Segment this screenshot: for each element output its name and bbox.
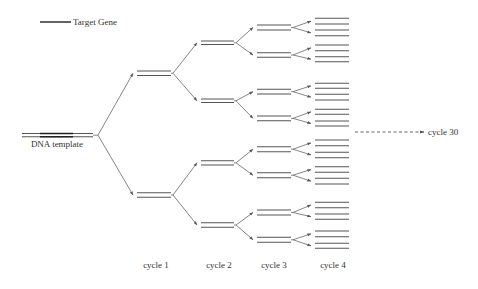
- cycle-1-label: cycle 1: [143, 260, 169, 270]
- branch-arrow-icon: [236, 213, 253, 226]
- generation-2: [201, 41, 234, 227]
- branch-arrow-icon: [236, 43, 253, 55]
- branch-arrow-icon: [236, 28, 253, 43]
- branch-arrow-icon: [293, 234, 311, 240]
- amplification-generations: [137, 18, 349, 248]
- branch-arrow-icon: [293, 92, 311, 98]
- branch-arrow-icon: [293, 205, 311, 213]
- branch-arrow-icon: [293, 118, 311, 123]
- branch-arrow-icon: [293, 86, 311, 92]
- branch-arrow-icon: [293, 175, 311, 181]
- branch-arrow-icon: [236, 101, 253, 119]
- branch-arrow-icon: [293, 55, 311, 59]
- dna-template-label: DNA template: [31, 139, 83, 149]
- branch-arrow-icon: [173, 163, 197, 195]
- branch-arrow-icon: [173, 73, 197, 101]
- branch-arrow-icon: [293, 143, 311, 149]
- dna-template: DNA template: [22, 134, 93, 150]
- generation-4: [315, 18, 349, 248]
- branch-arrow-icon: [293, 112, 311, 119]
- extrapolation: cycle 30: [355, 127, 459, 137]
- branch-arrows: [93, 21, 311, 246]
- legend-label: Target Gene: [73, 17, 117, 27]
- branch-arrow-icon: [173, 195, 197, 225]
- branch-arrow-icon: [293, 48, 311, 55]
- branch-arrow-icon: [293, 213, 311, 217]
- branch-arrow-icon: [236, 92, 253, 101]
- cycle-2-label: cycle 2: [206, 260, 232, 270]
- cycle-30-label: cycle 30: [428, 127, 459, 137]
- branch-arrow-icon: [293, 21, 311, 27]
- branch-arrow-icon: [236, 163, 253, 175]
- legend: Target Gene: [40, 17, 117, 27]
- generation-3: [257, 25, 291, 242]
- branch-arrow-icon: [173, 43, 197, 74]
- branch-arrow-icon: [98, 135, 133, 195]
- branch-arrow-icon: [236, 149, 253, 163]
- branch-arrow-icon: [236, 225, 253, 240]
- cycle-3-label: cycle 3: [261, 260, 287, 270]
- cycle-4-label: cycle 4: [320, 260, 346, 270]
- branch-arrow-icon: [293, 28, 311, 33]
- branch-arrow-icon: [293, 170, 311, 176]
- generation-1: [137, 71, 171, 197]
- branch-arrow-icon: [293, 149, 311, 155]
- branch-arrow-icon: [98, 73, 133, 135]
- branch-arrow-icon: [293, 240, 311, 246]
- pcr-amplification-diagram: Target Gene DNA template cycle 1 cycle 2…: [0, 0, 478, 289]
- cycle-labels: cycle 1 cycle 2 cycle 3 cycle 4: [143, 260, 346, 270]
